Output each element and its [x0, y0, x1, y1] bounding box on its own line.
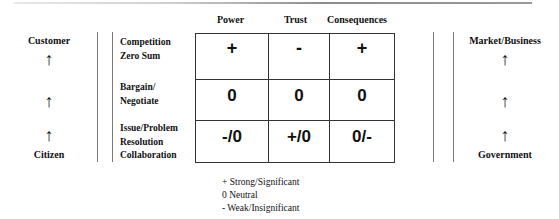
right-divider-line [433, 32, 434, 162]
column-header-trust: Trust [266, 14, 325, 25]
up-arrow-icon: ↑ [495, 50, 515, 68]
right-axis-bottom-label: Government [455, 149, 555, 160]
legend: + Strong/Significant 0 Neutral - Weak/In… [222, 176, 299, 215]
row-label-collaboration: Issue/Problem Resolution Collaboration [120, 122, 178, 163]
legend-item-strong: + Strong/Significant [222, 176, 299, 189]
matrix-cell: 0 [330, 80, 395, 121]
matrix-cell: +/0 [269, 121, 330, 163]
matrix-row: + - + [196, 34, 395, 80]
row-label-line: Zero Sum [120, 50, 171, 64]
row-label-line: Competition [120, 36, 171, 50]
up-arrow-icon: ↑ [39, 126, 59, 144]
matrix-cell: + [196, 34, 269, 80]
row-label-line: Bargain/ [120, 81, 159, 95]
column-header-consequences: Consequences [325, 14, 389, 25]
right-axis-top-label: Market/Business [455, 35, 555, 46]
top-divider [14, 2, 532, 4]
row-label-line: Resolution [120, 136, 178, 150]
matrix-cell: 0/- [330, 121, 395, 163]
right-divider-line [453, 32, 454, 162]
up-arrow-icon: ↑ [495, 126, 515, 144]
left-divider-line [112, 32, 113, 162]
legend-item-weak: - Weak/Insignificant [222, 202, 299, 215]
up-arrow-icon: ↑ [39, 92, 59, 110]
matrix-cell: - [269, 34, 330, 80]
matrix-cell: + [330, 34, 395, 80]
row-label-competition: Competition Zero Sum [120, 36, 171, 63]
matrix-cell: -/0 [196, 121, 269, 163]
row-label-line: Issue/Problem [120, 122, 178, 136]
column-header-power: Power [195, 14, 266, 25]
up-arrow-icon: ↑ [495, 92, 515, 110]
matrix-cell: 0 [196, 80, 269, 121]
left-axis-bottom-label: Citizen [14, 149, 84, 160]
row-label-bargain: Bargain/ Negotiate [120, 81, 159, 108]
left-divider-line [97, 32, 98, 162]
strategy-matrix: + - + 0 0 0 -/0 +/0 0/- [195, 33, 395, 163]
left-axis-top-label: Customer [14, 35, 84, 46]
matrix-cell: 0 [269, 80, 330, 121]
matrix-row: 0 0 0 [196, 80, 395, 121]
row-label-line: Collaboration [120, 149, 178, 163]
up-arrow-icon: ↑ [39, 50, 59, 68]
legend-item-neutral: 0 Neutral [222, 189, 299, 202]
matrix-row: -/0 +/0 0/- [196, 121, 395, 163]
row-label-line: Negotiate [120, 95, 159, 109]
